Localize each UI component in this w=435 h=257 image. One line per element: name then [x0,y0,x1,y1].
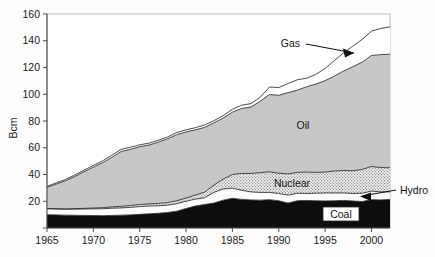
y-tick-label: 20 [28,195,40,207]
x-tick-label: 1990 [267,234,291,246]
x-tick-label: 1995 [313,234,337,246]
x-tick-label: 1975 [128,234,152,246]
y-tick-label: 40 [28,168,40,180]
y-axis-title: Bcm [7,117,19,138]
y-tick-label: 160 [22,8,40,20]
x-tick-label: 2000 [360,234,384,246]
y-tick-label: 60 [28,141,40,153]
y-tick-label: 140 [22,34,40,46]
x-tick-label: 1965 [35,234,59,246]
annotation-nuclear: Nuclear [274,177,311,189]
x-tick-label: 1980 [174,234,198,246]
annotation-coal: Coal [323,207,359,221]
stacked-area-chart: 2040608010012014016019651970197519801985… [0,0,435,257]
y-tick-label: 80 [28,115,40,127]
coal-label: Coal [330,208,352,220]
nuclear-label: Nuclear [274,177,311,189]
x-tick-label: 1985 [221,234,245,246]
hydro-label: Hydro [400,184,428,196]
y-tick-label: 120 [22,61,40,73]
oil-label: Oil [297,119,310,131]
y-tick-label: 100 [22,88,40,100]
chart-canvas: 2040608010012014016019651970197519801985… [0,0,435,257]
x-tick-label: 1970 [82,234,106,246]
gas-label: Gas [281,37,300,49]
annotation-oil: Oil [297,119,310,131]
